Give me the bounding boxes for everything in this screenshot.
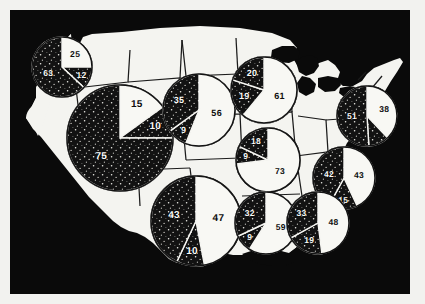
pie-slice-label: 20 [247,69,258,78]
pie-slice-label: 19 [304,236,314,245]
pie-slice-label: 56 [211,109,222,118]
pie-slice-label: 18 [251,137,261,146]
figure-page: 2512631510755693561192073918385143154247… [0,0,425,304]
pie-slice-label: 9 [247,233,252,242]
pie-slice-label: 75 [95,152,107,162]
pie-chart-upper-midwest: 611920 [229,55,299,125]
pie-chart-ohio-valley: 73918 [234,126,302,194]
pie-slice-label: 61 [274,91,285,100]
pie-slice-label: 25 [70,50,80,59]
pie-slice-label: 19 [239,91,250,100]
pie-svg [161,72,237,148]
pie-slice-label: 73 [275,166,285,175]
pie-slice-label: 43 [354,170,364,179]
pie-slice-label: 42 [324,170,334,179]
pie-chart-southwest: 471043 [149,174,243,268]
pie-chart-northeast: 3851 [335,84,399,148]
pie-slice-label: 32 [245,208,255,217]
pie-slice-label: 63 [43,69,53,78]
pie-slice-label: 38 [379,105,389,114]
pie-slice-label: 15 [131,100,143,110]
pie-slice-label: 9 [181,125,186,134]
pie-slice-label: 43 [168,211,180,221]
pie-slice-label: 33 [296,209,306,218]
pie-slice-label: 10 [186,247,198,257]
pie-chart-northern-plains: 56935 [161,72,237,148]
pie-chart-southeast: 481933 [285,190,351,256]
pie-svg [285,190,351,256]
pie-slice-label: 35 [174,95,185,104]
pie-slice-label: 9 [243,152,248,161]
pie-slice-label: 48 [328,218,338,227]
pie-slice-label: 51 [347,112,357,121]
pie-slice-label: 12 [76,70,86,79]
map-plate: 2512631510755693561192073918385143154247… [10,10,410,294]
pie-slice-label: 10 [149,122,161,132]
pie-slice-label: 47 [213,214,225,224]
pie-svg [335,84,399,148]
